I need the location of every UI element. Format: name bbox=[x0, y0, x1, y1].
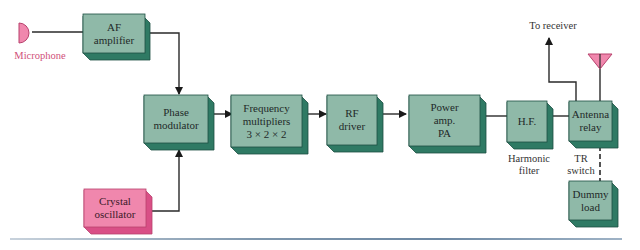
hf-filter-block: H.F. bbox=[507, 101, 547, 142]
harmonic-label-1: Harmonic bbox=[508, 153, 550, 164]
antenna-relay-block: Antennarelay bbox=[569, 101, 612, 141]
phase-modulator-label-2: modulator bbox=[153, 119, 198, 131]
phase-modulator-block: Phasemodulator bbox=[144, 95, 208, 143]
power-amp-block: Poweramp.PA bbox=[409, 95, 480, 146]
rf-driver-label-2: driver bbox=[339, 120, 365, 132]
wire-osc-phase bbox=[152, 150, 179, 211]
af-amplifier-label: AF bbox=[107, 21, 121, 33]
tr-switch-label: TRswitch bbox=[564, 153, 598, 177]
freq-mult-factor: 3 × 2 × 2 bbox=[247, 128, 287, 140]
bottom-rule bbox=[10, 238, 622, 240]
freq-mult-label: Frequency bbox=[243, 102, 289, 114]
crystal-oscillator-label: Crystal bbox=[99, 195, 131, 207]
af-amplifier-block: AFamplifier bbox=[83, 14, 145, 53]
to-receiver-label: To receiver bbox=[518, 20, 588, 32]
crystal-oscillator-block: Crystaloscillator bbox=[84, 189, 146, 227]
power-amp-label: Power bbox=[430, 101, 458, 113]
power-amp-label-3: PA bbox=[438, 127, 451, 139]
af-amplifier-label-2: amplifier bbox=[94, 34, 134, 46]
antenna-relay-label: Antenna bbox=[572, 108, 609, 120]
wire-af-phase bbox=[150, 33, 179, 94]
dummy-load-block: Dummyload bbox=[569, 181, 612, 220]
rf-driver-label: RF bbox=[345, 107, 358, 119]
crystal-oscillator-label-2: oscillator bbox=[95, 208, 136, 220]
antenna-relay-label-2: relay bbox=[580, 121, 602, 133]
dummy-load-label: Dummy bbox=[572, 188, 608, 200]
tr-label-2: switch bbox=[567, 165, 594, 176]
harmonic-label-2: filter bbox=[519, 165, 539, 176]
phase-modulator-label: Phase bbox=[163, 106, 189, 118]
tr-label-1: TR bbox=[574, 153, 587, 164]
block-diagram: AFamplifier Phasemodulator Frequencymult… bbox=[0, 0, 640, 250]
wire-relay-receiver bbox=[549, 38, 576, 101]
hf-filter-label: H.F. bbox=[518, 115, 537, 128]
freq-mult-label-2: multipliers bbox=[243, 115, 291, 127]
dummy-load-label-2: load bbox=[581, 201, 600, 213]
microphone-label: Microphone bbox=[0, 50, 80, 62]
harmonic-filter-label: Harmonicfilter bbox=[502, 153, 556, 177]
rf-driver-block: RFdriver bbox=[327, 95, 377, 145]
frequency-multipliers-block: Frequencymultipliers3 × 2 × 2 bbox=[231, 95, 302, 147]
microphone-icon bbox=[19, 23, 29, 43]
power-amp-label-2: amp. bbox=[434, 114, 456, 126]
